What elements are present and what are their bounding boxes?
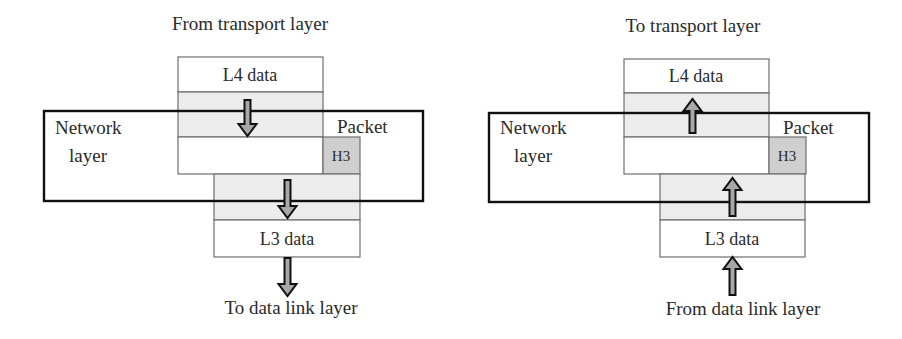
network-layer-diagram: From transport layer L4 data H3 L3 data … xyxy=(0,0,902,339)
top-label: To transport layer xyxy=(626,15,761,36)
diagram-receiving: To transport layer L4 data H3 L3 data Ne… xyxy=(489,15,869,319)
top-label: From transport layer xyxy=(172,13,329,34)
l3-data-label: L3 data xyxy=(260,229,314,249)
layer-label-line1: Network xyxy=(55,117,122,138)
bottom-label: To data link layer xyxy=(224,297,358,318)
packet-payload-box xyxy=(624,137,769,174)
h3-header-label: H3 xyxy=(332,148,350,164)
l3-data-label: L3 data xyxy=(705,229,759,249)
packet-payload-box xyxy=(178,137,323,174)
layer-label-line1: Network xyxy=(500,117,567,138)
l4-data-label: L4 data xyxy=(669,66,723,86)
bottom-label: From data link layer xyxy=(666,298,821,319)
layer-label-line2: layer xyxy=(514,145,553,166)
arrow-up-icon xyxy=(724,257,742,295)
l4-data-label: L4 data xyxy=(223,65,277,85)
packet-label: Packet xyxy=(783,117,834,138)
diagram-sending: From transport layer L4 data H3 L3 data … xyxy=(44,13,423,318)
layer-label-line2: layer xyxy=(69,145,108,166)
packet-label: Packet xyxy=(337,116,388,137)
arrow-down-icon xyxy=(279,258,297,296)
h3-header-label: H3 xyxy=(778,148,796,164)
